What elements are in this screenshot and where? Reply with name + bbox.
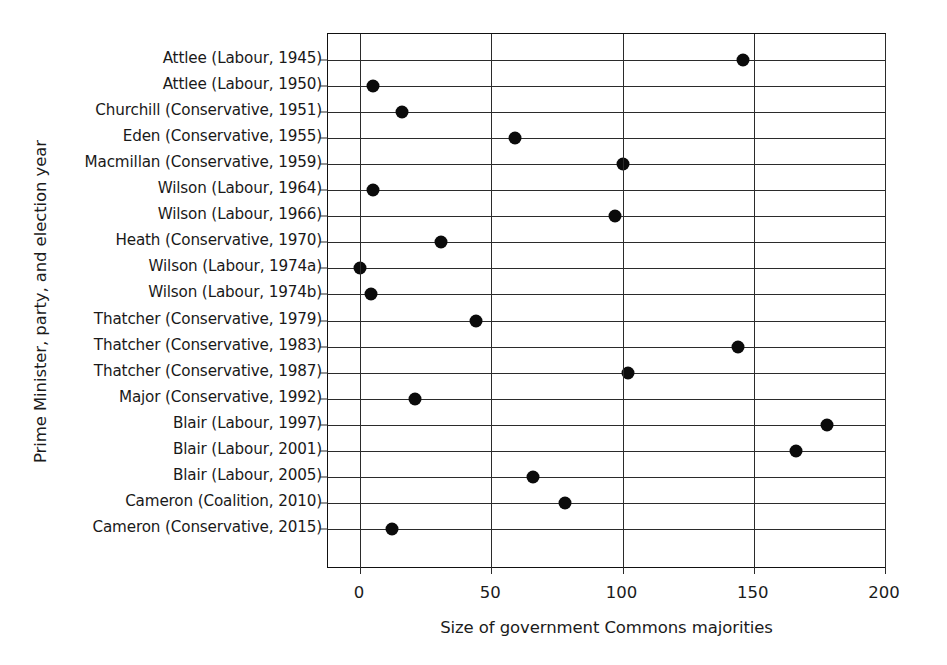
x-axis-tick-labels: 050100150200 (0, 0, 947, 665)
x-axis-tick-label: 100 (606, 583, 638, 602)
x-axis-tick-label: 150 (737, 583, 769, 602)
x-axis-tick-label: 200 (868, 583, 900, 602)
x-axis-tick-label: 0 (354, 583, 365, 602)
chart-figure: Prime Minister, party, and election year… (0, 0, 947, 665)
x-axis-title: Size of government Commons majorities (327, 618, 886, 637)
x-axis-tick-label: 50 (480, 583, 501, 602)
